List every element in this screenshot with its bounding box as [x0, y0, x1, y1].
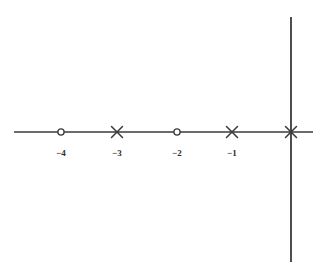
- pole-zero-plot: −4 −3 −2 −1: [0, 0, 328, 279]
- x-tick-label-minus-2: −2: [162, 148, 192, 158]
- zero-marker-minus-2: [174, 129, 180, 135]
- x-tick-label-minus-4: −4: [46, 148, 76, 158]
- x-tick-label-minus-1: −1: [217, 148, 247, 158]
- x-tick-label-minus-3: −3: [102, 148, 132, 158]
- zero-marker-minus-4: [58, 129, 64, 135]
- plot-canvas: [0, 0, 328, 279]
